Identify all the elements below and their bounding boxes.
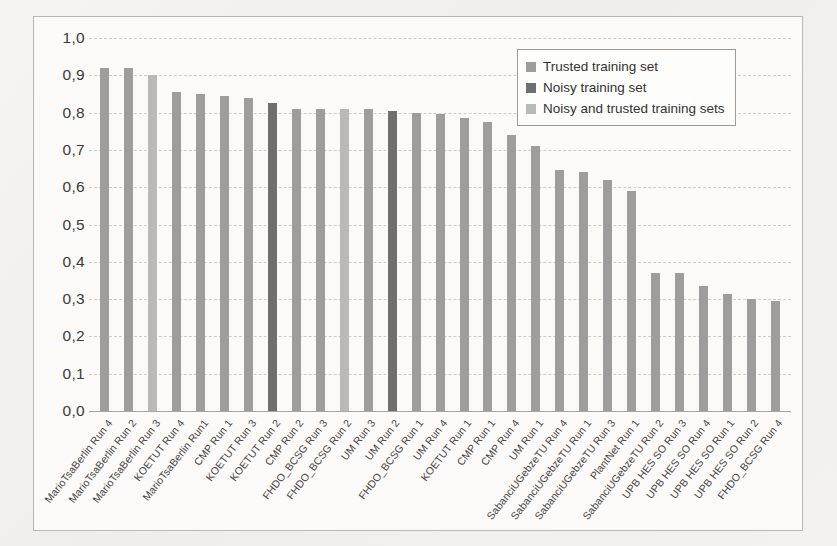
bar bbox=[148, 75, 157, 411]
bar bbox=[412, 113, 421, 411]
x-axis-labels: MarioTsaBerlin Run 4MarioTsaBerlin Run 2… bbox=[89, 413, 791, 525]
bar-slot bbox=[261, 38, 285, 411]
legend-label: Trusted training set bbox=[543, 59, 658, 74]
bar bbox=[603, 180, 612, 411]
legend-item: Noisy training set bbox=[526, 77, 725, 98]
bar bbox=[388, 111, 397, 411]
bar-slot bbox=[476, 38, 500, 411]
bar bbox=[244, 98, 253, 411]
bar-slot bbox=[452, 38, 476, 411]
x-axis-line bbox=[89, 411, 791, 412]
y-tick-label: 0,0 bbox=[63, 402, 85, 420]
bar bbox=[436, 114, 445, 411]
bar-slot bbox=[189, 38, 213, 411]
y-tick-label: 0,8 bbox=[63, 104, 85, 122]
bar bbox=[292, 109, 301, 411]
bar bbox=[555, 170, 564, 411]
bar-slot bbox=[237, 38, 261, 411]
legend-swatch bbox=[526, 83, 536, 93]
bar bbox=[364, 109, 373, 411]
legend-label: Noisy and trusted training sets bbox=[543, 101, 725, 116]
bar bbox=[531, 146, 540, 411]
y-tick-label: 1,0 bbox=[63, 29, 85, 47]
bar bbox=[723, 294, 732, 411]
bar-slot bbox=[213, 38, 237, 411]
bar-slot bbox=[428, 38, 452, 411]
bar-slot bbox=[739, 38, 763, 411]
y-tick-label: 0,6 bbox=[63, 178, 85, 196]
bar bbox=[651, 273, 660, 411]
bar-slot bbox=[356, 38, 380, 411]
bar bbox=[196, 94, 205, 411]
bar bbox=[483, 122, 492, 411]
y-tick-label: 0,9 bbox=[63, 66, 85, 84]
legend: Trusted training setNoisy training setNo… bbox=[517, 49, 736, 126]
bar bbox=[124, 68, 133, 411]
legend-swatch bbox=[526, 62, 536, 72]
y-tick-label: 0,7 bbox=[63, 141, 85, 159]
bar bbox=[268, 103, 277, 411]
bar bbox=[340, 109, 349, 411]
y-tick-label: 0,4 bbox=[63, 253, 85, 271]
bar bbox=[675, 273, 684, 411]
bar-slot bbox=[763, 38, 787, 411]
bar-slot bbox=[308, 38, 332, 411]
legend-item: Noisy and trusted training sets bbox=[526, 98, 725, 119]
y-tick-label: 0,5 bbox=[63, 216, 85, 234]
bar-slot bbox=[332, 38, 356, 411]
bar-slot bbox=[285, 38, 309, 411]
bar bbox=[460, 118, 469, 411]
bar bbox=[579, 172, 588, 411]
bar-slot bbox=[117, 38, 141, 411]
legend-swatch bbox=[526, 104, 536, 114]
bar bbox=[747, 299, 756, 411]
y-tick-label: 0,1 bbox=[63, 365, 85, 383]
bar-slot bbox=[165, 38, 189, 411]
bar bbox=[627, 191, 636, 411]
bar-chart: 1,00,90,80,70,60,50,40,30,20,10,0 MarioT… bbox=[33, 16, 803, 531]
bar bbox=[100, 68, 109, 411]
bar-slot bbox=[141, 38, 165, 411]
bar bbox=[771, 301, 780, 411]
bar bbox=[172, 92, 181, 411]
bar bbox=[220, 96, 229, 411]
bar-slot bbox=[93, 38, 117, 411]
legend-label: Noisy training set bbox=[543, 80, 647, 95]
bar-slot bbox=[380, 38, 404, 411]
legend-item: Trusted training set bbox=[526, 56, 725, 77]
bar bbox=[699, 286, 708, 411]
y-tick-label: 0,2 bbox=[63, 327, 85, 345]
y-tick-label: 0,3 bbox=[63, 290, 85, 308]
bar bbox=[316, 109, 325, 411]
bar bbox=[507, 135, 516, 411]
bar-slot bbox=[404, 38, 428, 411]
